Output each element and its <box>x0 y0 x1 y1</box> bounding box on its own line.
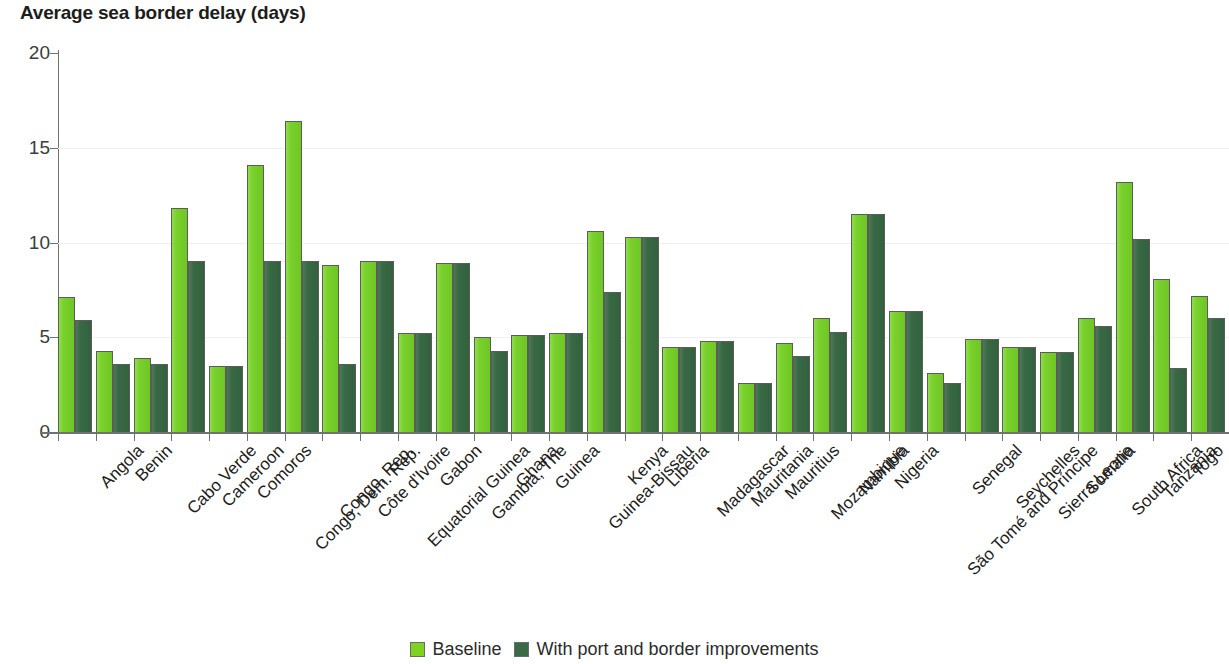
bar-group <box>360 53 398 432</box>
bar-improved <box>339 364 356 432</box>
bar-baseline <box>776 343 793 432</box>
bar-group <box>549 53 587 432</box>
bar-group <box>134 53 172 432</box>
x-axis-tick-mark <box>549 432 550 441</box>
bar-group <box>700 53 738 432</box>
bar-baseline <box>474 337 491 432</box>
bar-improved <box>113 364 130 432</box>
bar-group <box>209 53 247 432</box>
x-axis-tick-mark <box>247 432 248 441</box>
bar-group <box>322 53 360 432</box>
x-axis-tick-mark <box>1040 432 1041 441</box>
chart-container: Average sea border delay (days) 05101520… <box>0 0 1229 664</box>
bar-baseline <box>1116 182 1133 432</box>
bar-improved <box>528 335 545 432</box>
legend-label: With port and border improvements <box>536 640 818 658</box>
bar-group <box>776 53 814 432</box>
bar-group <box>58 53 96 432</box>
x-axis-tick-mark <box>927 432 928 441</box>
bar-group <box>1116 53 1154 432</box>
bar-group <box>587 53 625 432</box>
x-axis-tick-mark <box>587 432 588 441</box>
bar-improved <box>793 356 810 432</box>
bar-improved <box>868 214 885 432</box>
x-axis-tick-mark <box>134 432 135 441</box>
chart-legend: BaselineWith port and border improvement… <box>0 640 1229 658</box>
bar-baseline <box>96 351 113 432</box>
bar-baseline <box>1002 347 1019 432</box>
bar-group <box>813 53 851 432</box>
x-axis-tick-mark <box>625 432 626 441</box>
bar-baseline <box>851 214 868 432</box>
bar-group <box>1002 53 1040 432</box>
bar-baseline <box>436 263 453 432</box>
bar-group <box>96 53 134 432</box>
bar-baseline <box>58 297 75 432</box>
x-axis-tick-mark <box>738 432 739 441</box>
legend-swatch-icon <box>514 642 529 657</box>
bar-improved <box>717 341 734 432</box>
bar-baseline <box>625 237 642 432</box>
bar-improved <box>415 333 432 432</box>
bar-improved <box>1133 239 1150 432</box>
bar-baseline <box>1191 296 1208 432</box>
x-axis-tick-mark <box>96 432 97 441</box>
bar-group <box>398 53 436 432</box>
x-axis-tick-mark <box>1153 432 1154 441</box>
bar-baseline <box>511 335 528 432</box>
x-axis-tick-mark <box>1116 432 1117 441</box>
x-axis-tick-mark <box>474 432 475 441</box>
x-axis-tick-mark <box>171 432 172 441</box>
bar-baseline <box>209 366 226 432</box>
x-axis-tick-mark <box>285 432 286 441</box>
bar-group <box>171 53 209 432</box>
bar-baseline <box>285 121 302 432</box>
bar-baseline <box>1078 318 1095 432</box>
x-axis-tick-mark <box>209 432 210 441</box>
x-axis-tick-mark <box>965 432 966 441</box>
bar-baseline <box>247 165 264 432</box>
bar-baseline <box>700 341 717 432</box>
bar-baseline <box>813 318 830 432</box>
bar-improved <box>679 347 696 432</box>
bar-improved <box>604 292 621 432</box>
bar-improved <box>1057 352 1074 432</box>
bar-improved <box>1019 347 1036 432</box>
bar-baseline <box>549 333 566 432</box>
x-axis-tick-mark <box>1002 432 1003 441</box>
bar-group <box>662 53 700 432</box>
bar-improved <box>1208 318 1225 432</box>
bar-improved <box>906 311 923 432</box>
x-axis-tick-mark <box>776 432 777 441</box>
bar-group <box>1191 53 1229 432</box>
bar-baseline <box>1040 352 1057 432</box>
y-axis-tick-label: 5 <box>6 326 50 348</box>
x-axis-tick-mark <box>511 432 512 441</box>
legend-entry[interactable]: With port and border improvements <box>514 640 818 658</box>
x-axis-tick-mark <box>436 432 437 441</box>
legend-swatch-icon <box>410 642 425 657</box>
bar-baseline <box>927 373 944 432</box>
legend-entry[interactable]: Baseline <box>410 640 501 658</box>
y-axis-tick-label: 10 <box>6 232 50 254</box>
x-axis-tick-mark <box>1078 432 1079 441</box>
bar-baseline <box>134 358 151 432</box>
bar-improved <box>188 261 205 432</box>
bar-improved <box>1095 326 1112 432</box>
bar-improved <box>982 339 999 432</box>
x-axis-category-label: Senegal <box>968 441 1026 499</box>
bar-baseline <box>360 261 377 432</box>
y-axis-tick-label: 20 <box>6 42 50 64</box>
bar-group <box>738 53 776 432</box>
x-axis-tick-mark <box>398 432 399 441</box>
bar-group <box>965 53 1003 432</box>
bar-group <box>511 53 549 432</box>
bar-group <box>1040 53 1078 432</box>
bar-baseline <box>889 311 906 432</box>
bar-groups <box>58 53 1229 432</box>
bar-baseline <box>322 265 339 432</box>
bar-group <box>851 53 889 432</box>
bar-group <box>436 53 474 432</box>
bar-group <box>889 53 927 432</box>
bar-baseline <box>1153 279 1170 432</box>
